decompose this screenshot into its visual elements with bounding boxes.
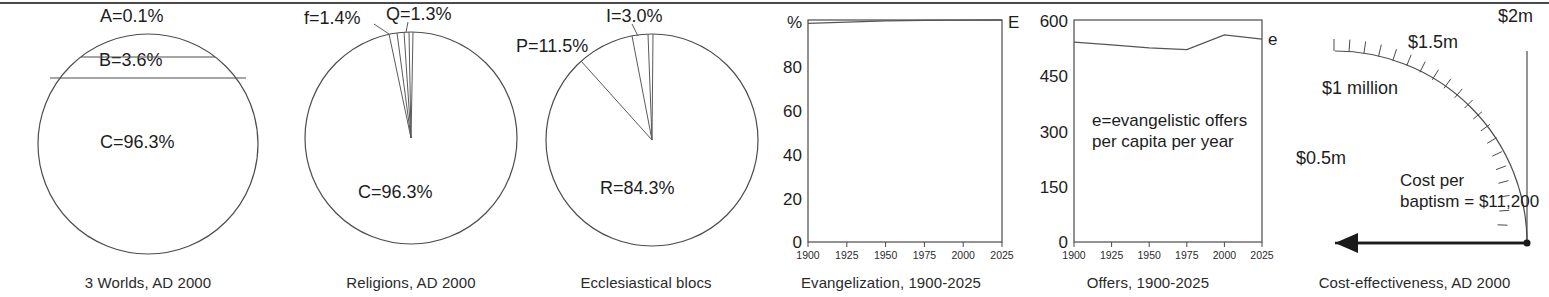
gauge-annotation-line-2: baptism = $11,200	[1400, 192, 1539, 211]
offers-xtick-1950: 1950	[1138, 249, 1162, 261]
offers-series-e	[1074, 35, 1262, 50]
evangelization-xtick-1925: 1925	[835, 249, 859, 261]
evangelization-xtick-1975: 1975	[913, 249, 937, 261]
gauge-tick	[1487, 138, 1496, 144]
offers-ytick-600: 600	[1040, 12, 1068, 31]
offers-ytick-150: 150	[1040, 178, 1068, 197]
evangelization-xtick-1950: 1950	[874, 249, 898, 261]
evangelization-ytick-20: 20	[783, 190, 802, 209]
offers-xtick-2000: 2000	[1213, 249, 1237, 261]
gauge-tick	[1379, 45, 1382, 57]
evangelization-xtick-2000: 2000	[952, 249, 976, 261]
offers-xtick-2025: 2025	[1250, 249, 1274, 261]
caption-ecclesiastical-blocs: Ecclesiastical blocs	[526, 274, 766, 291]
caption-religions: Religions, AD 2000	[296, 274, 526, 291]
gauge-tick	[1349, 40, 1350, 52]
religions-leader-q	[406, 22, 408, 32]
offers-chart: 600 450 300 150 0 1900 1925 1950 1975 20…	[1016, 0, 1280, 272]
offers-xtick-1925: 1925	[1100, 249, 1124, 261]
caption-offers: Offers, 1900-2025	[1016, 274, 1280, 291]
gauge-tick	[1465, 100, 1473, 108]
panel-offers: 600 450 300 150 0 1900 1925 1950 1975 20…	[1016, 0, 1280, 297]
gauge-tick	[1420, 62, 1425, 73]
figure-sheet: A=0.1% B=3.6% C=96.3% 3 Worlds, AD 2000 …	[0, 0, 1549, 297]
ecclesiastical-blocs-pie	[526, 0, 766, 270]
gauge-arc-path	[1335, 51, 1527, 243]
blocs-slice-edge-p	[581, 61, 652, 140]
religions-leader-f	[374, 24, 389, 34]
offers-ytick-300: 300	[1040, 123, 1068, 142]
gauge-tick	[1364, 42, 1366, 54]
offers-annotation-line-1: e=evangelistic offers	[1092, 111, 1247, 130]
gauge-annotation-line-1: Cost per	[1400, 171, 1465, 190]
evangelization-xtick-1900: 1900	[796, 249, 820, 261]
caption-cost-effectiveness: Cost-effectiveness, AD 2000	[1280, 274, 1549, 291]
offers-plot-frame	[1074, 20, 1262, 242]
three-worlds-diagram	[0, 0, 296, 270]
evangelization-ytick-40: 40	[783, 146, 802, 165]
panel-ecclesiastical-blocs: I=3.0% P=11.5% R=84.3% Ecclesiastical bl…	[526, 0, 766, 297]
religions-slice-edge-5	[411, 32, 413, 138]
caption-evangelization: Evangelization, 1900-2025	[766, 274, 1016, 291]
evangelization-ytick-100: %	[787, 13, 802, 32]
evangelization-plot-frame	[808, 20, 1002, 242]
evangelization-chart: % 80 60 40 20 0 1900 1925 1950 1975 2000…	[766, 0, 1016, 272]
offers-series-label-e: e	[1268, 30, 1277, 49]
evangelization-xtick-2025: 2025	[990, 249, 1014, 261]
offers-ytick-450: 450	[1040, 67, 1068, 86]
gauge-tick	[1496, 166, 1506, 170]
gauge-needle-arrowhead	[1335, 233, 1358, 253]
gauge-tick	[1432, 70, 1438, 80]
three-worlds-outer-circle	[38, 34, 258, 254]
panel-religions: f=1.4% Q=1.3% C=96.3% Religions, AD 2000	[296, 0, 526, 297]
gauge-needle-pivot	[1524, 240, 1531, 247]
panel-cost-effectiveness: $2m $1.5m $1 million $0.5m	[1280, 0, 1549, 297]
gauge-tick	[1492, 152, 1502, 157]
panel-evangelization: % 80 60 40 20 0 1900 1925 1950 1975 2000…	[766, 0, 1016, 297]
offers-xtick-1975: 1975	[1175, 249, 1199, 261]
blocs-leader-i	[632, 24, 638, 36]
gauge-tick	[1499, 181, 1509, 184]
gauge-tick	[1407, 55, 1412, 66]
evangelization-ytick-80: 80	[783, 58, 802, 77]
offers-xtick-1900: 1900	[1062, 249, 1086, 261]
religions-pie	[296, 0, 526, 270]
offers-annotation-line-2: per capita per year	[1092, 132, 1234, 151]
gauge-tick	[1393, 49, 1397, 60]
evangelization-ytick-60: 60	[783, 102, 802, 121]
cost-effectiveness-gauge: Cost per baptism = $11,200	[1280, 0, 1549, 272]
panel-three-worlds: A=0.1% B=3.6% C=96.3% 3 Worlds, AD 2000	[0, 0, 296, 297]
caption-three-worlds: 3 Worlds, AD 2000	[0, 274, 296, 291]
blocs-slice-edge-minor-2	[652, 34, 653, 140]
